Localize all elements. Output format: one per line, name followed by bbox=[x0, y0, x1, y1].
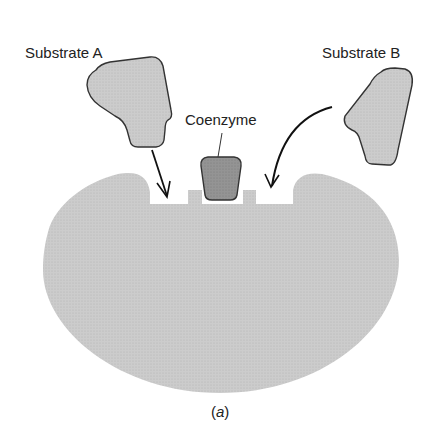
substrate-b-shape bbox=[344, 68, 412, 165]
coenzyme-pointer bbox=[218, 133, 222, 157]
coenzyme-shape bbox=[201, 157, 241, 200]
substrate-a-label: Substrate A bbox=[25, 44, 103, 61]
caption-close: ) bbox=[224, 403, 229, 420]
diagram-canvas bbox=[0, 0, 437, 447]
substrate-b-label: Substrate B bbox=[322, 44, 400, 61]
enzyme-body bbox=[43, 173, 399, 393]
arrow-substrate-a bbox=[152, 150, 170, 197]
coenzyme-label: Coenzyme bbox=[185, 111, 257, 128]
figure-caption: (a) bbox=[211, 403, 229, 420]
substrate-a-shape bbox=[87, 57, 172, 147]
